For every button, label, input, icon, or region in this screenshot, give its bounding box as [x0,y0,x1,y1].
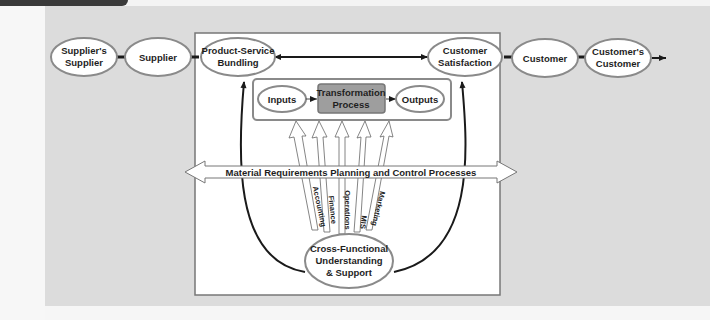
label-operations: Operations [343,190,352,230]
svg-text:Supplier: Supplier [65,57,103,68]
supply-chain-diagram: Supplier's Supplier Supplier Product-Ser… [0,0,710,320]
node-customer-satisfaction: Customer Satisfaction [428,38,502,76]
svg-text:Customer's: Customer's [592,46,644,57]
svg-text:Supplier's: Supplier's [61,45,107,56]
svg-text:Bundling: Bundling [217,57,258,68]
svg-text:Satisfaction: Satisfaction [438,57,492,68]
node-inputs: Inputs [258,86,306,112]
node-transformation-process: Transformation Process [316,84,385,113]
node-customers-customer: Customer's Customer [585,39,651,77]
node-customer: Customer [512,39,578,77]
svg-text:Supplier: Supplier [139,52,177,63]
svg-text:Customer: Customer [596,58,641,69]
node-outputs: Outputs [396,86,444,112]
node-cross-functional: Cross-Functional Understanding & Support [305,234,393,288]
svg-text:Transformation: Transformation [316,87,385,98]
svg-text:Material Requirements Planning: Material Requirements Planning and Contr… [226,167,477,178]
label-mis: MIS [358,215,368,229]
node-supplier: Supplier [125,38,191,76]
svg-text:Understanding: Understanding [315,255,382,266]
svg-text:Customer: Customer [443,45,488,56]
svg-text:Outputs: Outputs [402,94,438,105]
svg-text:Customer: Customer [523,53,568,64]
svg-text:& Support: & Support [326,267,373,278]
node-product-service-bundling: Product-Service Bundling [201,38,275,76]
svg-text:Inputs: Inputs [268,94,297,105]
svg-text:Product-Service: Product-Service [202,45,275,56]
svg-text:Cross-Functional: Cross-Functional [310,243,388,254]
node-suppliers-supplier: Supplier's Supplier [51,38,117,76]
svg-text:Process: Process [333,99,370,110]
